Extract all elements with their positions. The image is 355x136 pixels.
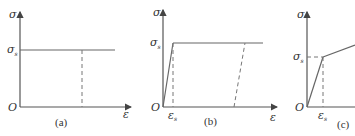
epsilon-axis-label-a: ε (123, 108, 129, 121)
yield-stress-label: σs (150, 36, 161, 50)
yield-strain-label: εs (318, 109, 327, 122)
caption-b: (b) (204, 115, 217, 128)
stress-strain-diagrams: σ σs O (a) ε σ σs O εs ε (b) σ σs O εs (… (0, 0, 355, 136)
elastic-line (163, 43, 173, 107)
yield-stress-label: σs (293, 50, 304, 64)
sigma-axis-label: σ (9, 8, 17, 21)
unloading-dashed-line (234, 43, 245, 107)
panel-c: σ σs O εs (c) (293, 8, 355, 131)
caption-a: (a) (55, 116, 68, 129)
sigma-axis-label: σ (153, 6, 161, 19)
panel-a: σ σs O (a) (7, 8, 131, 129)
elastic-line (307, 57, 323, 107)
sigma-axis-label: σ (297, 8, 305, 21)
panel-b: σ σs O εs ε (b) (150, 6, 277, 128)
origin-label: O (151, 101, 160, 114)
origin-label: O (295, 101, 304, 114)
yield-strain-label: εs (168, 109, 177, 122)
origin-label: O (8, 101, 17, 114)
epsilon-axis-label-b: ε (270, 111, 276, 124)
yield-stress-label: σs (7, 43, 18, 57)
caption-c: (c) (337, 118, 350, 131)
hardening-line (323, 45, 355, 57)
